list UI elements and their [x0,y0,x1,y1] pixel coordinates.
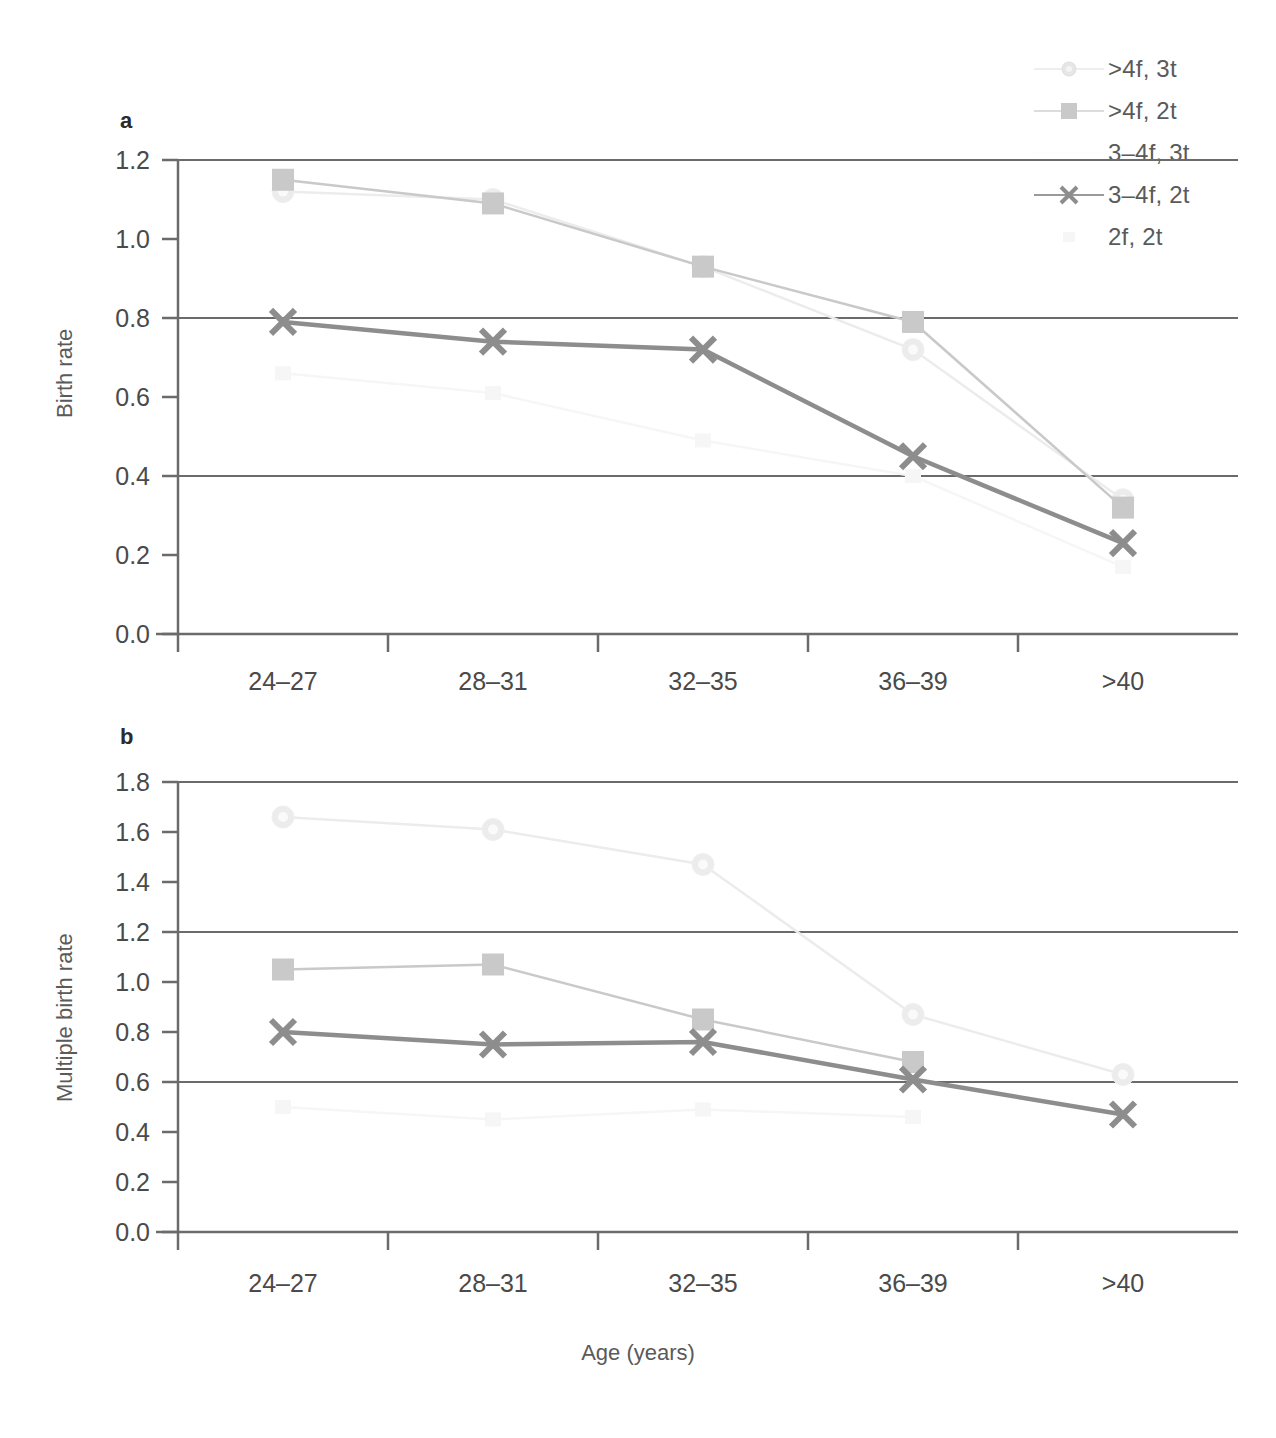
figure-root: >4f, 3t >4f, 2t 3–4f, 3t [0,0,1276,1438]
y-tick-label: 1.0 [115,968,150,996]
y-tick-label: 1.8 [115,768,150,796]
y-tick-label: 1.0 [115,225,150,253]
data-point-faint [905,1110,921,1124]
data-point-faint [485,1113,501,1127]
x-tick-label: 32–35 [668,667,738,695]
y-tick-label: 0.2 [115,541,150,569]
data-point-square [482,192,504,214]
data-point-circle-inner [908,1010,918,1020]
x-tick-label: 28–31 [458,667,528,695]
y-tick-label: 1.2 [115,146,150,174]
series-2f-2t [275,366,1131,574]
series-line [283,322,1123,543]
data-point-square [692,1009,714,1031]
panel-b-plot: 0.00.20.40.60.81.01.21.41.61.824–2728–31… [0,720,1276,1380]
data-point-square [272,169,294,191]
x-tick-label: 36–39 [878,1269,948,1297]
series-line [283,180,1123,508]
series-line [283,1107,913,1120]
data-point-faint [485,386,501,400]
x-axis-title: Age (years) [0,1340,1276,1366]
x-tick-label: 24–27 [248,1269,318,1297]
data-point-square [902,311,924,333]
y-tick-label: 0.6 [115,1068,150,1096]
data-point-circle-inner [698,860,708,870]
data-point-circle-inner [488,825,498,835]
y-tick-label: 0.0 [115,620,150,648]
data-point-faint [275,1100,291,1114]
data-point-faint [905,469,921,483]
data-point-faint [1115,560,1131,574]
y-tick-label: 0.8 [115,1018,150,1046]
series--4f-2t [272,954,924,1074]
panel-a-plot: 0.00.20.40.60.81.01.224–2728–3132–3536–3… [0,0,1276,720]
y-tick-label: 1.6 [115,818,150,846]
data-point-cross [1111,531,1135,555]
x-tick-label: 32–35 [668,1269,738,1297]
data-point-square [1112,497,1134,519]
data-point-cross [901,444,925,468]
data-point-square [482,954,504,976]
data-point-faint [275,366,291,380]
y-tick-label: 1.2 [115,918,150,946]
data-point-square [272,959,294,981]
series-line [283,373,1123,567]
series--4f-2t [272,169,1134,519]
data-point-square [692,256,714,278]
x-tick-label: >40 [1102,1269,1144,1297]
data-point-circle-inner [908,345,918,355]
y-tick-label: 0.6 [115,383,150,411]
data-point-circle-inner [1118,1070,1128,1080]
data-point-faint [695,433,711,447]
data-point-faint [695,1103,711,1117]
y-tick-label: 0.2 [115,1168,150,1196]
data-point-circle-inner [278,812,288,822]
y-tick-label: 0.4 [115,1118,150,1146]
x-tick-label: 28–31 [458,1269,528,1297]
x-tick-label: >40 [1102,667,1144,695]
y-tick-label: 0.0 [115,1218,150,1246]
series-3-4f-2t [271,310,1135,555]
y-tick-label: 0.4 [115,462,150,490]
series-2f-2t [275,1100,921,1127]
series-line [283,965,913,1063]
x-tick-label: 36–39 [878,667,948,695]
x-tick-label: 24–27 [248,667,318,695]
y-tick-label: 1.4 [115,868,150,896]
y-tick-label: 0.8 [115,304,150,332]
